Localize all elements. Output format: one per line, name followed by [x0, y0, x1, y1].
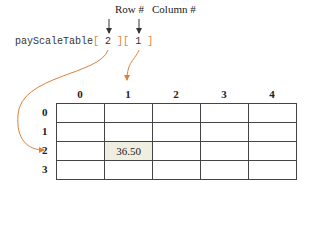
two-dimensional-array-grid: 36.50	[56, 103, 297, 180]
column-header: 4	[248, 88, 296, 100]
table-row	[57, 161, 297, 180]
row-header: 3	[42, 163, 48, 175]
highlighted-cell: 36.50	[105, 142, 153, 161]
row-header: 2	[42, 144, 48, 156]
table-row	[57, 123, 297, 142]
column-curve-arrow-icon	[127, 50, 139, 80]
column-header: 3	[200, 88, 248, 100]
column-header: 0	[56, 88, 104, 100]
row-header: 1	[42, 125, 48, 137]
table-row: 36.50	[57, 142, 297, 161]
column-header: 2	[152, 88, 200, 100]
table-row	[57, 104, 297, 123]
column-header: 1	[104, 88, 152, 100]
row-header: 0	[42, 106, 48, 118]
